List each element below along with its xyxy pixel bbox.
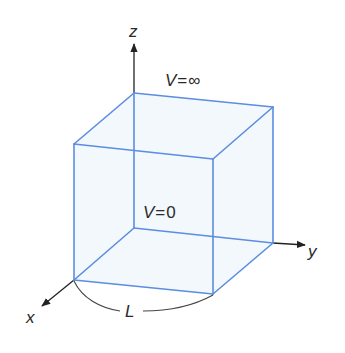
x-axis-label: x: [25, 308, 35, 327]
outside-potential-label: V=∞: [165, 71, 200, 90]
side-length-label: L: [125, 302, 134, 321]
outside-potential-var: V: [165, 71, 178, 90]
brace-left-arc: [74, 281, 120, 311]
z-axis-label: z: [128, 22, 138, 41]
inside-potential-label: V=0: [143, 203, 176, 222]
brace-right-arc: [143, 295, 213, 311]
inside-potential-val: 0: [166, 203, 175, 222]
box-potential-diagram: z y x V=∞ V=0 L: [0, 0, 345, 353]
inside-potential-var: V: [143, 203, 156, 222]
outside-potential-eq: =: [177, 71, 187, 90]
y-axis-label: y: [307, 242, 318, 261]
outside-potential-val: ∞: [188, 71, 200, 90]
cube-faces: [74, 93, 273, 294]
inside-potential-eq: =: [155, 203, 165, 222]
y-axis: [273, 243, 305, 245]
x-axis: [42, 280, 74, 306]
